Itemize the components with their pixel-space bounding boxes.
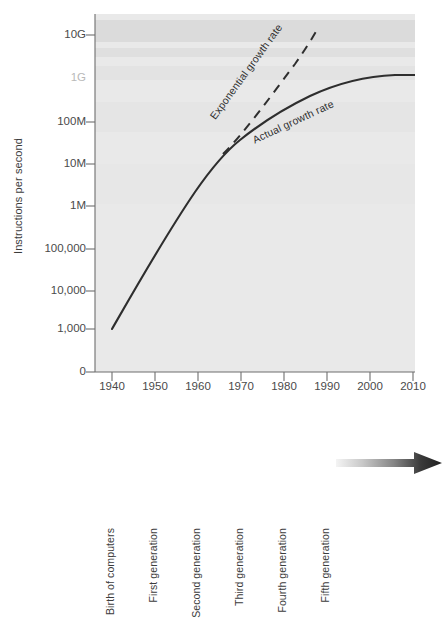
y-tick-label: 100,000: [0, 242, 86, 254]
x-tick-label-group: 1940 1950 1960 1970 1980 1990 2000 2010: [0, 380, 446, 400]
generation-label-first-generation: First generation: [147, 528, 159, 603]
y-tick-label: 0: [0, 365, 86, 377]
series-actual-growth-rate: [112, 75, 415, 329]
y-tick-label: 10,000: [0, 284, 86, 296]
generation-label-third-generation: Third generation: [233, 528, 245, 606]
arrow-shape: [336, 452, 442, 474]
generation-label-fifth-generation: Fifth generation: [319, 528, 331, 603]
generation-label-birth-of-computers: Birth of computers: [104, 528, 116, 615]
y-tick-label: 10G: [0, 28, 86, 40]
generation-label-text: Second generation: [190, 528, 202, 618]
generation-label-text: Fifth generation: [319, 528, 331, 603]
generation-label-second-generation: Second generation: [190, 528, 202, 618]
generation-label-fourth-generation: Fourth generation: [276, 528, 288, 613]
y-tick-label: 1,000: [0, 322, 86, 334]
generation-label-text: Birth of computers: [104, 528, 116, 615]
y-tick-label: 10M: [0, 157, 86, 169]
y-tick-marks: [86, 35, 95, 372]
generation-label-text: Fourth generation: [276, 528, 288, 613]
y-tick-label: 1M: [0, 199, 86, 211]
x-tick-label: 2010: [386, 380, 440, 392]
generation-label-text: First generation: [147, 528, 159, 603]
y-tick-label: 1G: [0, 71, 86, 83]
y-tick-label: 100M: [0, 115, 86, 127]
generation-label-text: Third generation: [233, 528, 245, 606]
time-direction-arrow: [336, 452, 442, 474]
